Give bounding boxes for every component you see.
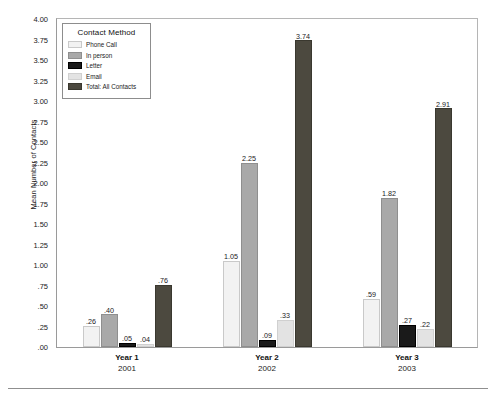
y-axis-tick-label: 2.50: [33, 138, 48, 147]
bar[interactable]: 2.91: [435, 108, 452, 347]
y-axis-tick-label: 1.50: [33, 220, 48, 229]
y-axis-tick-label: 3.25: [33, 76, 48, 85]
x-axis-group-label: Year 22002: [255, 352, 279, 374]
y-axis-tick-labels: 4.003.753.503.253.002.752.502.252.001.75…: [0, 0, 56, 395]
legend-item[interactable]: In person: [68, 51, 145, 60]
x-axis-category-year: 2002: [255, 363, 279, 374]
legend: Contact Method Phone CallIn personLetter…: [62, 23, 151, 99]
legend-swatch-icon: [68, 52, 82, 59]
legend-item[interactable]: Email: [68, 72, 145, 81]
bar-value-label: .59: [366, 291, 376, 298]
legend-swatch-icon: [68, 41, 82, 48]
bar[interactable]: .27: [399, 325, 416, 347]
legend-item[interactable]: Letter: [68, 61, 145, 70]
y-axis-tick-label: 1.00: [33, 261, 48, 270]
legend-entries: Phone CallIn personLetterEmailTotal: All…: [68, 40, 145, 91]
y-axis-tick-label: .25: [38, 322, 48, 331]
y-axis-tick-label: 3.00: [33, 97, 48, 106]
bar-value-label: 2.91: [436, 101, 450, 108]
legend-item-label: In person: [86, 51, 112, 60]
bar[interactable]: 1.82: [381, 198, 398, 347]
legend-swatch-icon: [68, 62, 82, 69]
y-axis-tick-label: 3.50: [33, 56, 48, 65]
y-axis-tick-label: 2.75: [33, 117, 48, 126]
legend-item-label: Email: [86, 72, 102, 81]
x-axis-category-name: Year 1: [115, 352, 139, 363]
bar-value-label: .27: [402, 317, 412, 324]
x-axis-group-label: Year 32003: [395, 352, 419, 374]
legend-item-label: Total: All Contacts: [86, 82, 136, 91]
x-axis-category-year: 2003: [395, 363, 419, 374]
legend-item-label: Letter: [86, 61, 102, 70]
legend-item-label: Phone Call: [86, 40, 117, 49]
x-axis-group-label: Year 12001: [115, 352, 139, 374]
bar[interactable]: .22: [417, 329, 434, 347]
footer-divider: [8, 388, 488, 389]
y-axis-tick-label: 3.75: [33, 35, 48, 44]
legend-item[interactable]: Phone Call: [68, 40, 145, 49]
x-axis-category-name: Year 2: [255, 352, 279, 363]
legend-title: Contact Method: [68, 28, 145, 37]
y-axis-tick-label: .75: [38, 281, 48, 290]
bar-value-label: .22: [420, 321, 430, 328]
bar-chart-figure: Mean Number of Contacts 4.003.753.503.25…: [0, 0, 496, 395]
x-axis-category-year: 2001: [115, 363, 139, 374]
legend-swatch-icon: [68, 83, 82, 90]
y-axis-tick-label: .00: [38, 343, 48, 352]
x-axis-category-name: Year 3: [395, 352, 419, 363]
legend-item[interactable]: Total: All Contacts: [68, 82, 145, 91]
y-axis-tick-label: 2.25: [33, 158, 48, 167]
bar[interactable]: .59: [363, 299, 380, 347]
y-axis-tick-label: 4.00: [33, 15, 48, 24]
y-axis-tick-label: 1.75: [33, 199, 48, 208]
y-axis-tick-label: 1.25: [33, 240, 48, 249]
bar-value-label: 1.82: [382, 190, 396, 197]
x-axis-tick-labels: Year 12001Year 22002Year 32003: [57, 352, 477, 382]
y-axis-tick-label: 2.00: [33, 179, 48, 188]
legend-swatch-icon: [68, 73, 82, 80]
y-axis-tick-label: .50: [38, 302, 48, 311]
